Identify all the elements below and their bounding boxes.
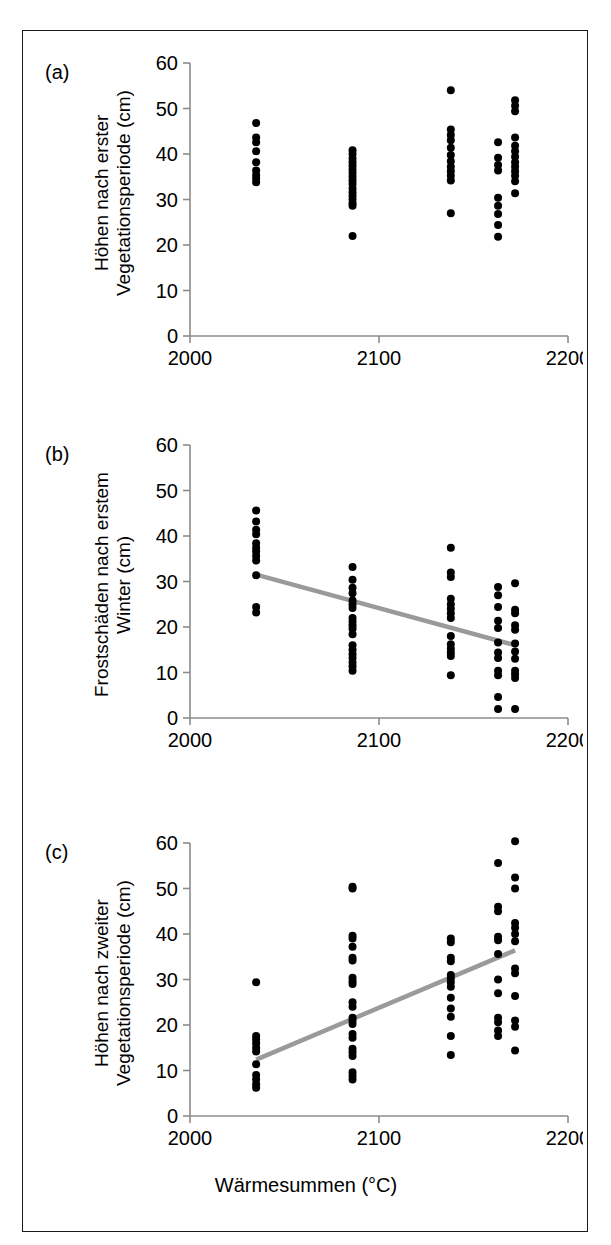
data-point <box>447 671 455 679</box>
data-point <box>349 667 357 675</box>
y-tick-label: 40 <box>156 525 178 547</box>
data-point <box>511 992 519 1000</box>
figure-frame: (a) Höhen nach erster Vegetationsperiode… <box>22 30 588 1232</box>
data-point <box>252 507 260 515</box>
data-point <box>252 1047 260 1055</box>
data-point <box>349 232 357 240</box>
data-point <box>494 907 502 915</box>
y-tick-label: 50 <box>156 878 178 900</box>
data-point <box>252 1084 260 1092</box>
data-point <box>494 603 502 611</box>
data-point <box>349 563 357 571</box>
data-point <box>494 638 502 646</box>
data-point <box>447 136 455 144</box>
data-point <box>252 138 260 146</box>
data-point <box>349 943 357 951</box>
panel-a-label: (a) <box>45 61 69 84</box>
data-point <box>511 655 519 663</box>
data-point <box>511 648 519 656</box>
x-tick-label: 2200 <box>546 729 583 751</box>
data-point <box>447 614 455 622</box>
data-point <box>511 107 519 115</box>
data-point <box>349 1003 357 1011</box>
data-point <box>447 994 455 1002</box>
data-point <box>252 1060 260 1068</box>
data-point <box>447 632 455 640</box>
data-point <box>494 210 502 218</box>
data-point <box>349 202 357 210</box>
panel-b: (b) Frostschäden nach erstem Winter (cm)… <box>23 421 589 819</box>
panel-c-label: (c) <box>45 841 68 864</box>
data-point <box>494 617 502 625</box>
data-point <box>494 166 502 174</box>
data-point <box>494 624 502 632</box>
data-point <box>252 119 260 127</box>
data-point <box>447 176 455 184</box>
data-point <box>447 1051 455 1059</box>
x-tick-label: 2000 <box>168 1127 213 1149</box>
x-tick-label: 2100 <box>357 347 402 369</box>
y-tick-label: 60 <box>156 832 178 854</box>
data-point <box>511 134 519 142</box>
data-point <box>252 978 260 986</box>
data-point <box>447 144 455 152</box>
y-tick-label: 20 <box>156 1014 178 1036</box>
data-point <box>511 885 519 893</box>
data-point <box>494 989 502 997</box>
x-tick-label: 2200 <box>546 1127 583 1149</box>
data-point <box>511 874 519 882</box>
data-point <box>494 591 502 599</box>
data-point <box>349 1076 357 1084</box>
data-point <box>252 147 260 155</box>
data-point <box>511 189 519 197</box>
data-point <box>494 859 502 867</box>
data-point <box>447 1032 455 1040</box>
data-point <box>349 589 357 597</box>
data-point <box>349 935 357 943</box>
data-point <box>511 705 519 713</box>
panel-a-plot: 0102030405060200021002200 <box>123 51 583 411</box>
data-point <box>494 976 502 984</box>
data-point <box>447 652 455 660</box>
x-tick-label: 2000 <box>168 729 213 751</box>
data-point <box>511 626 519 634</box>
data-point <box>252 608 260 616</box>
data-point <box>252 557 260 565</box>
data-point <box>494 583 502 591</box>
data-point <box>349 1020 357 1028</box>
data-point <box>511 969 519 977</box>
data-point <box>252 571 260 579</box>
data-point <box>511 837 519 845</box>
y-tick-label: 10 <box>156 662 178 684</box>
y-tick-label: 30 <box>156 969 178 991</box>
y-tick-label: 40 <box>156 143 178 165</box>
data-point <box>511 937 519 945</box>
trendline <box>256 950 515 1059</box>
data-point <box>511 1046 519 1054</box>
y-tick-label: 50 <box>156 480 178 502</box>
data-point <box>349 1034 357 1042</box>
panel-b-label: (b) <box>45 443 69 466</box>
data-point <box>349 885 357 893</box>
data-point <box>511 177 519 185</box>
data-point <box>511 674 519 682</box>
data-point <box>349 630 357 638</box>
data-point <box>494 1032 502 1040</box>
data-point <box>494 671 502 679</box>
data-point <box>447 544 455 552</box>
data-point <box>494 194 502 202</box>
y-tick-label: 60 <box>156 434 178 456</box>
y-tick-label: 20 <box>156 616 178 638</box>
x-tick-label: 2200 <box>546 347 583 369</box>
x-tick-label: 2100 <box>357 1127 402 1149</box>
data-point <box>447 573 455 581</box>
data-point <box>494 936 502 944</box>
y-tick-label: 0 <box>167 707 178 729</box>
data-point <box>447 86 455 94</box>
data-point <box>511 579 519 587</box>
x-axis-label: Wärmesummen (°C) <box>23 1174 589 1197</box>
y-tick-label: 10 <box>156 280 178 302</box>
x-tick-label: 2100 <box>357 729 402 751</box>
data-point <box>511 639 519 647</box>
data-point <box>494 1018 502 1026</box>
